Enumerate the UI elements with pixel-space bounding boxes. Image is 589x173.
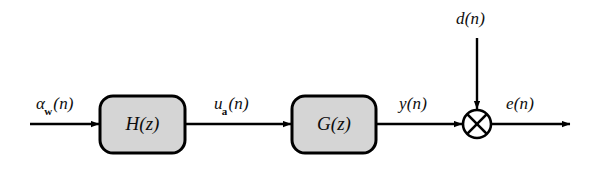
signal-u-a-arg: (n) <box>228 94 248 113</box>
signal-label-alpha-w: αw(n) <box>36 95 74 115</box>
signal-label-y: y(n) <box>399 95 427 112</box>
signal-u-a-subscript: a <box>222 105 228 117</box>
signal-d-arg: (n) <box>465 9 485 28</box>
summing-junction <box>463 110 491 138</box>
filter-h-label: H(z) <box>100 114 185 133</box>
block-diagram: H(z) G(z) αw(n) ua(n) y(n) d(n) e(n) <box>0 0 589 173</box>
signal-e-base: e <box>506 94 514 113</box>
signal-label-u-a: ua(n) <box>214 95 249 115</box>
signal-e-arg: (n) <box>514 94 534 113</box>
signal-label-e: e(n) <box>506 95 534 112</box>
signal-d-base: d <box>456 9 465 28</box>
signal-label-d: d(n) <box>456 10 485 27</box>
diagram-canvas <box>0 0 589 173</box>
signal-y-base: y <box>399 94 407 113</box>
signal-alpha-w-arg: (n) <box>53 94 73 113</box>
signal-y-arg: (n) <box>407 94 427 113</box>
signal-alpha-w-subscript: w <box>44 105 52 117</box>
filter-g-label: G(z) <box>292 114 376 133</box>
